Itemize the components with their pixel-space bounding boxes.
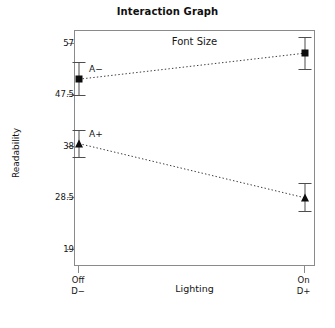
legend-title: Font Size xyxy=(74,36,315,47)
interaction-graph: Interaction Graph Readability 5747.53828… xyxy=(0,0,335,328)
y-tick-label: 28.5 xyxy=(38,192,74,202)
series-label: A− xyxy=(89,64,103,74)
errorbar-cap xyxy=(298,211,311,212)
errorbar-cap xyxy=(72,62,85,63)
series-connector-line xyxy=(79,53,305,79)
plot-area: A−A+ xyxy=(74,30,315,266)
y-tick-label: 38 xyxy=(38,141,74,151)
x-axis-title: Lighting xyxy=(74,283,315,294)
y-tick-label: 57 xyxy=(38,38,74,48)
errorbar-cap xyxy=(298,183,311,184)
y-tick-label: 19 xyxy=(38,244,74,254)
series-connector-line xyxy=(79,144,305,198)
data-point-marker[interactable] xyxy=(301,193,309,201)
y-tick-label: 47.5 xyxy=(38,89,74,99)
connector-lines xyxy=(75,31,316,267)
data-point-marker[interactable] xyxy=(75,139,83,147)
x-tick-mark xyxy=(78,266,79,273)
y-axis-title: Readability xyxy=(11,103,21,203)
errorbar-cap xyxy=(72,130,85,131)
errorbar-cap xyxy=(298,69,311,70)
data-point-marker[interactable] xyxy=(301,50,308,57)
series-label: A+ xyxy=(89,129,103,139)
errorbar-cap xyxy=(72,157,85,158)
data-point-marker[interactable] xyxy=(75,76,82,83)
series-layer: A−A+ xyxy=(75,31,316,267)
x-tick-mark xyxy=(304,266,305,273)
errorbar-cap xyxy=(72,95,85,96)
